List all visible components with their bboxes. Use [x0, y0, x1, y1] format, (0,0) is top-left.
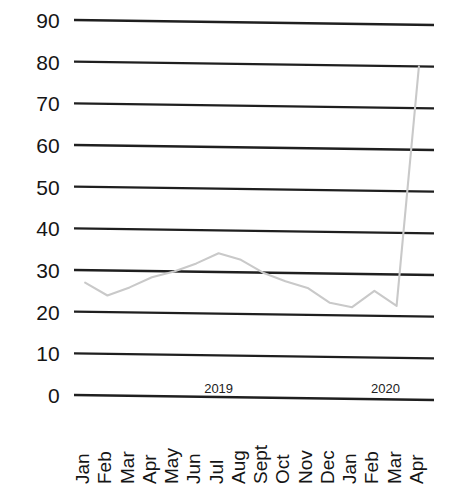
y-axis-tick-label: 70 [4, 93, 60, 114]
x-axis-tick-label: Oct [273, 454, 292, 484]
y-axis-tick-label: 0 [4, 385, 60, 406]
line-chart: 9080706050403020100 JanFebMarAprMayJunJu… [0, 0, 453, 484]
x-axis-tick-label: Jul [207, 460, 226, 484]
x-axis-tick-label: Jan [73, 453, 92, 484]
gridline [74, 145, 434, 150]
x-axis-tick-label: Aug [229, 450, 248, 484]
x-axis-tick-label: May [162, 448, 181, 484]
x-axis-tick-label: Mar [385, 451, 404, 484]
plot-area [74, 20, 430, 395]
y-axis-tick-label: 90 [4, 10, 60, 31]
y-axis-tick-label: 60 [4, 135, 60, 156]
gridline [74, 228, 434, 233]
x-axis-tick-label: Sept [251, 445, 270, 484]
x-axis-year-label: 2019 [204, 382, 233, 395]
gridline [74, 353, 434, 358]
x-axis-year-label: 2020 [371, 382, 400, 395]
x-axis: JanFebMarAprMayJunJulAugSeptOctNovDecJan… [74, 398, 430, 484]
gridline [74, 187, 434, 192]
gridline [74, 20, 434, 25]
y-axis-tick-label: 50 [4, 176, 60, 197]
gridlines [74, 20, 434, 400]
x-axis-tick-label: Jun [184, 453, 203, 484]
x-axis-tick-label: Jan [340, 453, 359, 484]
x-axis-tick-label: Mar [118, 451, 137, 484]
x-axis-tick-label: Apr [407, 454, 426, 484]
gridline [74, 103, 434, 108]
x-axis-tick-label: Feb [362, 451, 381, 484]
gridline [74, 62, 434, 67]
plot-svg [74, 20, 430, 395]
y-axis-tick-label: 10 [4, 343, 60, 364]
y-axis-tick-label: 20 [4, 301, 60, 322]
gridline [74, 270, 434, 275]
x-axis-tick-label: Dec [318, 450, 337, 484]
y-axis: 9080706050403020100 [4, 0, 60, 484]
y-axis-tick-label: 80 [4, 51, 60, 72]
y-axis-tick-label: 30 [4, 260, 60, 281]
x-axis-tick-label: Feb [95, 451, 114, 484]
gridline [74, 312, 434, 317]
x-axis-tick-label: Nov [296, 450, 315, 484]
x-axis-tick-label: Apr [140, 454, 159, 484]
y-axis-tick-label: 40 [4, 218, 60, 239]
